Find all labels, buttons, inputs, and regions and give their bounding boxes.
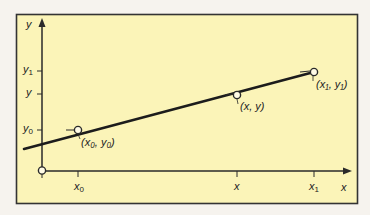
y-tick-sub: 0 [29,127,33,136]
x-tick-sub: 0 [80,185,84,194]
x-tick-label-x1: x1 [309,181,319,194]
y-tick-label-y: y [26,87,32,98]
y-tick-label-y1: y1 [23,64,33,77]
x-tick-label-x0: x0 [74,181,84,194]
point-x0-y0 [74,126,81,133]
y-axis-label: y [26,19,32,30]
x-tick-base: x [234,180,240,192]
point-label-x0-y0: (x₀, y₀) [81,137,115,148]
x-axis-label: x [341,182,347,193]
x-tick-sub: 1 [315,185,319,194]
point-label-x1-y1: (x₁, y₁) [316,79,347,90]
origin-point [38,167,45,174]
point-x1-y1 [310,68,317,75]
y-tick-base: y [26,86,32,98]
y-tick-sub: 1 [29,68,33,77]
x-tick-label-x: x [234,181,240,192]
point-x-y [233,91,240,98]
point-label-x-y: (x, y) [240,101,264,112]
y-tick-label-y0: y0 [23,123,33,136]
diagram-frame [17,15,358,204]
interpolation-diagram: y x y1 y y0 x0 x x1 (x₀, y₀) (x, y) (x₁,… [0,0,370,215]
